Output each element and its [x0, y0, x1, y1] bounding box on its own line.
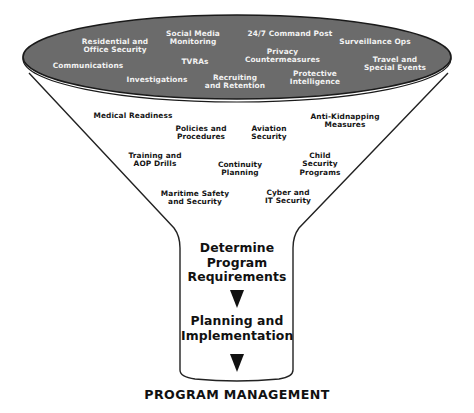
funnel-item-child-security: Child Security Programs [290, 152, 350, 177]
rim-item-social-media: Social Media Monitoring [158, 30, 228, 47]
funnel-item-anti-kidnapping: Anti-Kidnapping Measures [305, 113, 385, 130]
funnel-item-continuity: Continuity Planning [210, 161, 270, 178]
rim-item-investigations: Investigations [122, 76, 192, 84]
funnel-item-medical: Medical Readiness [88, 112, 178, 120]
rim-item-communications: Communications [48, 62, 128, 70]
rim-item-privacy: Privacy Countermeasures [240, 48, 325, 65]
diagram-title: PROGRAM MANAGEMENT [0, 387, 474, 402]
rim-item-command-post: 24/7 Command Post [240, 30, 340, 38]
rim-item-tvras: TVRAs [170, 58, 220, 66]
step-determine-requirements: Determine Program Requirements [185, 241, 289, 285]
funnel-item-aviation: Aviation Security [244, 125, 294, 142]
rim-item-protective-intel: Protective Intelligence [280, 70, 350, 87]
rim-item-recruiting: Recruiting and Retention [200, 74, 270, 91]
funnel-item-policies: Policies and Procedures [166, 125, 236, 142]
rim-item-surveillance: Surveillance Ops [330, 38, 420, 46]
rim-item-travel: Travel and Special Events [355, 56, 435, 73]
step-planning-implementation: Planning and Implementation [181, 314, 293, 343]
funnel-item-maritime: Maritime Safety and Security [155, 190, 235, 207]
funnel-item-training: Training and AOP Drills [120, 152, 190, 169]
program-management-funnel-diagram: Residential and Office Security Social M… [0, 0, 474, 413]
rim-item-residential: Residential and Office Security [70, 38, 160, 55]
funnel-item-cyber: Cyber and IT Security [258, 189, 318, 206]
